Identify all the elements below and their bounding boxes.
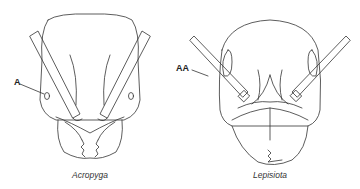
- caption-lepisiota: Lepisiota: [230, 170, 310, 180]
- caption-acropyga: Acropyga: [50, 170, 130, 180]
- callout-label-right: AA: [176, 63, 189, 73]
- acropyga-head-icon: [20, 14, 150, 159]
- lepisiota-head-icon: [190, 20, 350, 165]
- callout-label-left: A: [14, 77, 21, 87]
- ant-head-comparison-figure: A AA Acropyga Lepisiota: [0, 0, 360, 189]
- ant-heads-drawing: [0, 0, 360, 189]
